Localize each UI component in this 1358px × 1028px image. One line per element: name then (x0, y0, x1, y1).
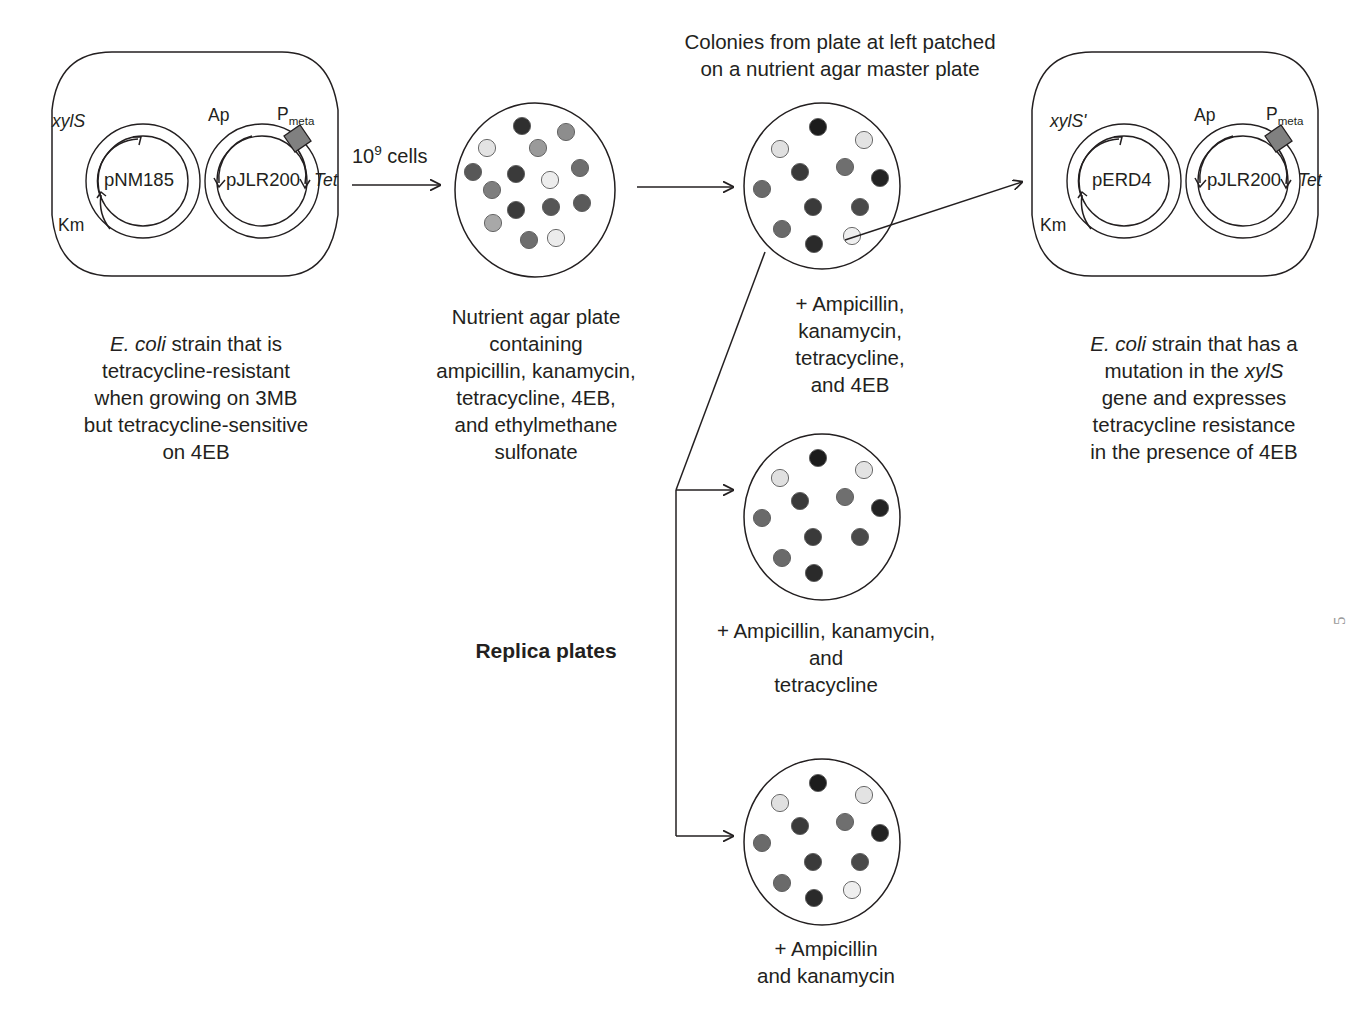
colony-dot (771, 469, 788, 486)
plates-group (455, 103, 900, 925)
colony-dot (464, 163, 481, 180)
petri-dish-outline (455, 103, 615, 277)
colony-dot (547, 229, 564, 246)
label-pmeta-left: Pmeta (277, 104, 314, 127)
inoculum-label: 109 cells (352, 143, 427, 168)
replica-plate-1-caption: + Ampicillin, kanamycin, and tetracyclin… (670, 617, 982, 698)
colony-dot (529, 139, 546, 156)
colony-dot (791, 492, 808, 509)
colony-dot (805, 564, 822, 581)
label-pjlr200-right: pJLR200 (1207, 169, 1281, 191)
arrow-mutant-callout (845, 182, 1022, 240)
right-cell-caption: E. coli strain that has a mutation in th… (1046, 303, 1342, 465)
colony-dot (771, 794, 788, 811)
colony-dot (871, 824, 888, 841)
colony-dot (771, 140, 788, 157)
colony-dot (791, 817, 808, 834)
colony-dot (484, 214, 501, 231)
petri-dish-outline (744, 434, 900, 600)
replica-plate-2-caption: + Ampicillin and kanamycin (694, 935, 958, 989)
pmeta-sub-right: meta (1278, 115, 1304, 127)
figure-canvas: Colonies from plate at left patched on a… (0, 0, 1358, 1028)
colony-dot (573, 194, 590, 211)
colony-dot (791, 163, 808, 180)
selection-plate-caption: Nutrient agar plate containing ampicilli… (408, 303, 664, 465)
colony-dot (871, 169, 888, 186)
colony-dot (773, 549, 790, 566)
colony-dot (855, 461, 872, 478)
colony-dot (507, 201, 524, 218)
colony-dot (542, 198, 559, 215)
pmeta-base: P (277, 104, 289, 124)
colony-dot (513, 117, 530, 134)
colony-dot (851, 198, 868, 215)
label-tet-left: Tet (314, 170, 338, 191)
colony-dot (836, 158, 853, 175)
colony-dot (836, 488, 853, 505)
replica-plate-amp-kan (744, 759, 900, 925)
left-bacterium-outline (52, 52, 338, 276)
colony-dot (507, 165, 524, 182)
colony-dot (773, 874, 790, 891)
colony-dot (753, 509, 770, 526)
colony-dot (871, 499, 888, 516)
replica-plate-amp-kan-tet (744, 434, 900, 600)
colony-dot (520, 231, 537, 248)
inoculum-exponent: 9 (374, 143, 382, 158)
left-caption-species: E. coli (110, 332, 166, 355)
label-tet-right: Tet (1298, 170, 1322, 191)
petri-dish-outline (744, 103, 900, 269)
diagram-vector-layer (0, 0, 1358, 1028)
label-perd4: pERD4 (1092, 169, 1152, 191)
colony-dot (805, 889, 822, 906)
nutrient-agar-selection-plate (455, 103, 615, 277)
label-km-right: Km (1040, 215, 1066, 236)
colony-dot (804, 853, 821, 870)
colony-dot (557, 123, 574, 140)
colony-dot (753, 834, 770, 851)
replica-plates-label: Replica plates (432, 637, 660, 664)
colony-dot (851, 853, 868, 870)
inoculum-base: 10 (352, 145, 374, 167)
label-km-left: Km (58, 215, 84, 236)
colony-dot (836, 813, 853, 830)
inoculum-unit: cells (382, 145, 428, 167)
master-plate (744, 103, 900, 269)
label-pjlr200-left: pJLR200 (226, 169, 300, 191)
colony-dot (804, 528, 821, 545)
pmeta-base-right: P (1266, 104, 1278, 124)
pmeta-sub: meta (289, 115, 315, 127)
colony-dot (478, 139, 495, 156)
master-plate-heading: Colonies from plate at left patched on a… (640, 28, 1040, 82)
colony-dot (855, 131, 872, 148)
colony-dot (804, 198, 821, 215)
colony-dot (855, 786, 872, 803)
petri-dish-outline (744, 759, 900, 925)
colony-dot (843, 881, 860, 898)
colony-dot (805, 235, 822, 252)
colony-dot (809, 118, 826, 135)
colony-dot (809, 774, 826, 791)
label-xyls-right: xylS' (1050, 111, 1086, 132)
label-xyls-left: xylS (52, 111, 85, 132)
label-pnm185: pNM185 (104, 169, 174, 191)
colony-dot (483, 181, 500, 198)
right-caption-species: E. coli (1090, 332, 1146, 355)
colony-dot (843, 227, 860, 244)
left-cell-caption: E. coli strain that is tetracycline-resi… (48, 303, 344, 465)
right-bacterium-outline (1032, 52, 1318, 276)
scan-artifact: 5 (1330, 617, 1350, 626)
master-plate-caption: + Ampicillin, kanamycin, tetracycline, a… (744, 290, 956, 398)
colony-dot (571, 159, 588, 176)
label-ap-left: Ap (208, 105, 229, 126)
colony-dot (541, 171, 558, 188)
label-pmeta-right: Pmeta (1266, 104, 1303, 127)
colony-dot (851, 528, 868, 545)
label-ap-right: Ap (1194, 105, 1215, 126)
right-caption-gene: xylS (1245, 359, 1284, 382)
colony-dot (809, 449, 826, 466)
colony-dot (773, 220, 790, 237)
right-caption-rest: gene and expresses tetracycline resistan… (1090, 386, 1297, 463)
colony-dot (753, 180, 770, 197)
